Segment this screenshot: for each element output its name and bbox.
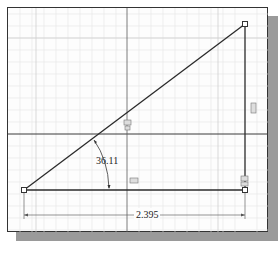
endpoint-bottom-left[interactable] xyxy=(22,188,27,193)
dimension-arrow-right xyxy=(241,214,245,217)
sketch-drawing: 36.11 2.395 xyxy=(0,0,279,253)
length-dimension-value[interactable]: 2.395 xyxy=(136,209,159,220)
vertical-constraint-icon[interactable] xyxy=(251,103,256,113)
grid xyxy=(8,8,268,232)
grid-major xyxy=(8,8,268,232)
angle-arrow-bottom xyxy=(108,185,111,189)
hypotenuse-constraint-icon[interactable] xyxy=(124,120,131,130)
endpoint-top-right[interactable] xyxy=(243,22,248,27)
horizontal-constraint-icon[interactable] xyxy=(130,178,138,183)
angle-dimension-value[interactable]: 36.11 xyxy=(96,155,118,166)
dimension-arrow-left xyxy=(24,214,28,217)
hypotenuse-line[interactable] xyxy=(24,24,245,190)
corner-constraint-icon[interactable] xyxy=(241,176,248,186)
endpoint-bottom-right[interactable] xyxy=(243,188,248,193)
